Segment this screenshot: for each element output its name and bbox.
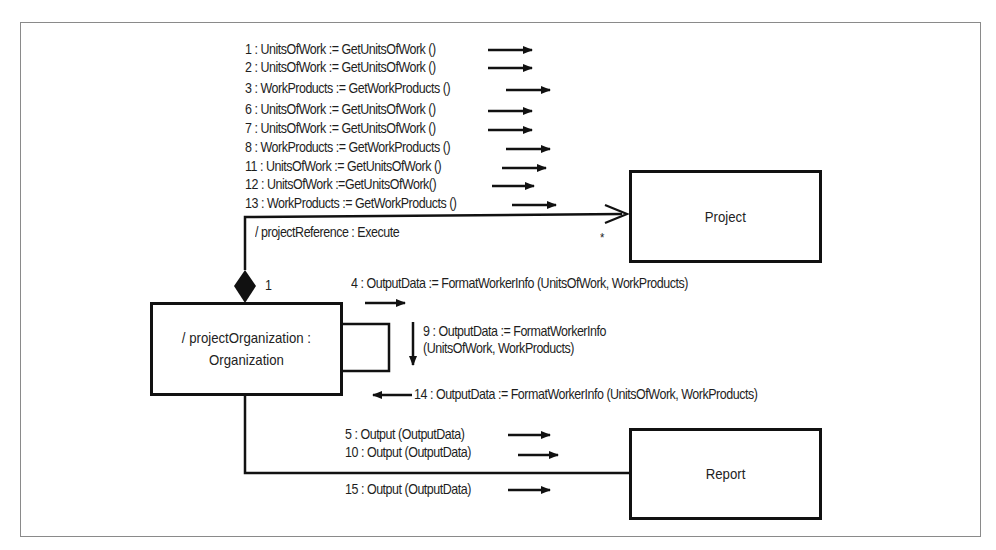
composition-diamond-icon [234, 270, 256, 303]
message-8: 8 : WorkProducts := GetWorkProducts () [245, 139, 450, 156]
message-10: 10 : Output (OutputData) [345, 444, 471, 461]
message-7: 7 : UnitsOfWork := GetUnitsOfWork () [245, 120, 436, 137]
message-4: 4 : OutputData := FormatWorkerInfo (Unit… [351, 275, 688, 292]
multiplicity-one-label: 1 [265, 277, 271, 294]
message-11: 11 : UnitsOfWork := GetUnitsOfWork () [245, 158, 441, 175]
message-14: 14 : OutputData := FormatWorkerInfo (Uni… [414, 386, 757, 403]
report-object-box[interactable]: Report [629, 428, 822, 520]
message-2: 2 : UnitsOfWork := GetUnitsOfWork () [245, 59, 436, 76]
organization-role-label: / projectOrganization : [182, 327, 311, 349]
message-6: 6 : UnitsOfWork := GetUnitsOfWork () [245, 101, 436, 118]
organization-class-label: Organization [209, 349, 284, 371]
project-object-box[interactable]: Project [629, 170, 822, 263]
project-link-line [245, 214, 622, 270]
message-1: 1 : UnitsOfWork := GetUnitsOfWork () [245, 41, 436, 58]
report-object-label: Report [706, 463, 746, 485]
message-3: 3 : WorkProducts := GetWorkProducts () [245, 80, 450, 97]
multiplicity-many-label: * [600, 229, 604, 246]
message-arrows-report [508, 435, 558, 490]
message-15: 15 : Output (OutputData) [345, 481, 471, 498]
project-reference-label: / projectReference : Execute [255, 224, 399, 241]
message-9-line1: 9 : OutputData := FormatWorkerInfo [423, 323, 606, 340]
organization-object-box[interactable]: / projectOrganization : Organization [150, 302, 343, 396]
message-12: 12 : UnitsOfWork :=GetUnitsOfWork() [245, 176, 436, 193]
message-arrows-project [488, 50, 556, 205]
self-link-loop [341, 324, 389, 371]
message-9-line2: (UnitsOfWork, WorkProducts) [423, 340, 574, 357]
message-5: 5 : Output (OutputData) [345, 426, 464, 443]
project-object-label: Project [705, 206, 746, 228]
message-13: 13 : WorkProducts := GetWorkProducts () [245, 195, 457, 212]
